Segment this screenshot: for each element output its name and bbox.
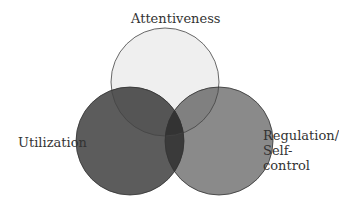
utilization-label: Utilization (18, 135, 87, 150)
attentiveness-label: Attentiveness (131, 11, 221, 26)
regulation-label-line1: Regulation/ (263, 128, 339, 143)
regulation-label-line2: Self-control (263, 143, 335, 173)
